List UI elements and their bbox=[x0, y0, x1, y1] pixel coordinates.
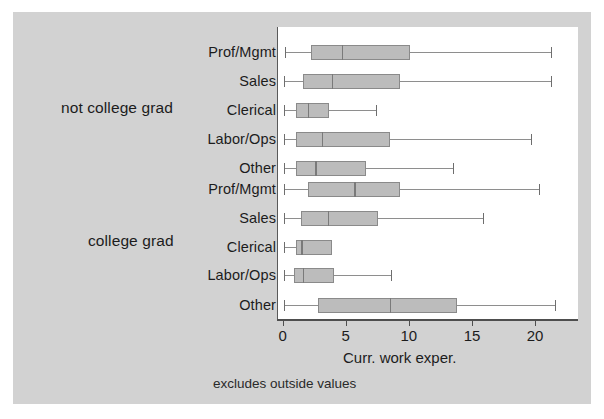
x-tick bbox=[535, 319, 536, 326]
x-tick-label: 20 bbox=[527, 327, 544, 344]
box-iqr bbox=[296, 103, 329, 118]
x-tick bbox=[283, 319, 284, 326]
x-tick bbox=[472, 319, 473, 326]
box-plot-row bbox=[278, 157, 578, 179]
box-iqr bbox=[318, 298, 457, 313]
upper-whisker-cap bbox=[551, 47, 552, 58]
median-line bbox=[328, 211, 329, 226]
lower-whisker-cap bbox=[284, 76, 285, 87]
x-tick-label: 15 bbox=[464, 327, 481, 344]
box-iqr bbox=[301, 211, 378, 226]
median-line bbox=[390, 298, 391, 313]
upper-whisker-cap bbox=[483, 213, 484, 224]
upper-whisker bbox=[457, 305, 557, 306]
lower-whisker bbox=[284, 110, 297, 111]
box-plot-row bbox=[278, 128, 578, 150]
box-plot-row bbox=[278, 264, 578, 286]
category-label-clerical: Clerical bbox=[227, 102, 276, 118]
lower-whisker-cap bbox=[284, 184, 285, 195]
lower-whisker bbox=[284, 189, 308, 190]
upper-whisker-cap bbox=[551, 76, 552, 87]
upper-whisker-cap bbox=[539, 184, 540, 195]
upper-whisker-cap bbox=[555, 300, 556, 311]
lower-whisker-cap bbox=[284, 242, 285, 253]
x-axis-title: Curr. work exper. bbox=[343, 349, 456, 366]
box-plot-row bbox=[278, 236, 578, 258]
median-line bbox=[342, 45, 343, 60]
upper-whisker-cap bbox=[453, 163, 454, 174]
box-plot-row bbox=[278, 99, 578, 121]
category-label-column: Prof/MgmtSalesClericalLabor/OpsOtherProf… bbox=[133, 12, 276, 322]
box-iqr bbox=[296, 161, 365, 176]
upper-whisker bbox=[329, 110, 377, 111]
upper-whisker-cap bbox=[376, 105, 377, 116]
x-tick bbox=[346, 319, 347, 326]
upper-whisker bbox=[390, 139, 533, 140]
lower-whisker-cap bbox=[285, 47, 286, 58]
x-tick-label: 5 bbox=[342, 327, 350, 344]
median-line bbox=[332, 74, 333, 89]
category-label-clerical: Clerical bbox=[227, 239, 276, 255]
box-iqr bbox=[294, 268, 334, 283]
lower-whisker bbox=[284, 139, 297, 140]
lower-whisker-cap bbox=[284, 300, 285, 311]
box-plot-row bbox=[278, 70, 578, 92]
upper-whisker-cap bbox=[391, 270, 392, 281]
figure-canvas: not college grad college grad Prof/MgmtS… bbox=[13, 12, 591, 404]
lower-whisker bbox=[284, 247, 297, 248]
x-tick bbox=[409, 319, 410, 326]
box-plot-row bbox=[278, 294, 578, 316]
category-label-sales: Sales bbox=[239, 210, 276, 226]
x-tick-label: 0 bbox=[279, 327, 287, 344]
lower-whisker-cap bbox=[284, 270, 285, 281]
category-label-prof-mgmt: Prof/Mgmt bbox=[208, 44, 276, 60]
x-axis-line bbox=[277, 319, 578, 321]
category-label-other: Other bbox=[239, 160, 276, 176]
x-tick-label: 10 bbox=[401, 327, 418, 344]
upper-whisker bbox=[410, 52, 553, 53]
lower-whisker bbox=[285, 52, 312, 53]
median-line bbox=[322, 132, 323, 147]
box-plot-row bbox=[278, 207, 578, 229]
lower-whisker bbox=[284, 305, 318, 306]
boxplot-series bbox=[278, 27, 578, 320]
lower-whisker bbox=[284, 81, 303, 82]
category-label-labor-ops: Labor/Ops bbox=[207, 267, 276, 283]
category-label-prof-mgmt: Prof/Mgmt bbox=[208, 181, 276, 197]
lower-whisker-cap bbox=[284, 134, 285, 145]
upper-whisker bbox=[400, 189, 540, 190]
median-line bbox=[308, 103, 309, 118]
lower-whisker-cap bbox=[284, 213, 285, 224]
category-label-other: Other bbox=[239, 297, 276, 313]
upper-whisker bbox=[334, 275, 392, 276]
box-iqr bbox=[296, 132, 389, 147]
lower-whisker-cap bbox=[284, 105, 285, 116]
box-iqr bbox=[311, 45, 409, 60]
median-line bbox=[303, 268, 304, 283]
lower-whisker bbox=[284, 168, 297, 169]
upper-whisker-cap bbox=[531, 134, 532, 145]
box-plot-row bbox=[278, 178, 578, 200]
median-line bbox=[315, 161, 316, 176]
lower-whisker bbox=[284, 275, 294, 276]
box-plot-row bbox=[278, 41, 578, 63]
plot-area bbox=[277, 27, 578, 320]
category-label-labor-ops: Labor/Ops bbox=[207, 131, 276, 147]
upper-whisker bbox=[400, 81, 553, 82]
lower-whisker-cap bbox=[284, 163, 285, 174]
lower-whisker bbox=[284, 218, 302, 219]
upper-whisker bbox=[366, 168, 454, 169]
category-label-sales: Sales bbox=[239, 73, 276, 89]
median-line bbox=[301, 240, 302, 255]
upper-whisker bbox=[378, 218, 484, 219]
chart-note: excludes outside values bbox=[213, 376, 356, 391]
box-iqr bbox=[303, 74, 400, 89]
x-axis: 05101520 bbox=[277, 319, 578, 329]
median-line bbox=[354, 182, 355, 197]
